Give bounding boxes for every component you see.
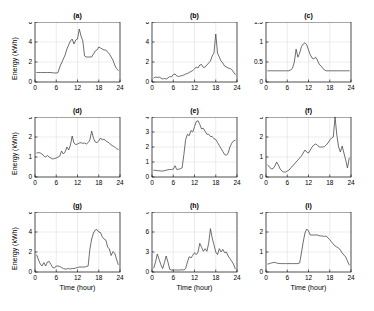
x-tick-label: 0 — [264, 179, 268, 186]
y-axis-label: Energy (kWh) — [11, 132, 18, 175]
figure-container: (a)061218240246Energy (kWh)(b)0612182402… — [0, 0, 374, 311]
x-tick-label: 6 — [54, 274, 58, 281]
x-tick-label: 18 — [95, 179, 103, 186]
x-tick-label: 18 — [326, 179, 334, 186]
y-tick-label: 3 — [145, 128, 149, 135]
y-tick-label: 2 — [259, 133, 263, 140]
y-tick-label: 0 — [28, 268, 32, 275]
chart-panel-g: (g)061218240246Energy (kWh)Time (hour) — [5, 201, 130, 295]
chart-panel-e: (e)0612182401234 — [122, 106, 247, 200]
plot-area: 0612182401234 — [122, 117, 247, 211]
x-tick-label: 18 — [212, 179, 220, 186]
chart-panel-h: (h)061218240369Time (hour) — [122, 201, 247, 295]
y-tick-label: 3 — [259, 212, 263, 215]
plot-area: 061218240123 — [5, 117, 130, 211]
x-tick-label: 0 — [150, 179, 154, 186]
chart-panel-b: (b)061218240246 — [122, 11, 247, 105]
panel-title: (c) — [266, 11, 351, 20]
y-tick-label: 3 — [28, 117, 32, 120]
x-axis-label: Time (hour) — [35, 284, 120, 291]
y-tick-label: 9 — [145, 212, 149, 215]
x-tick-label: 0 — [33, 274, 37, 281]
x-tick-label: 12 — [191, 84, 199, 91]
x-tick-label: 18 — [326, 84, 334, 91]
x-tick-label: 12 — [191, 274, 199, 281]
panel-title: (f) — [266, 106, 351, 115]
y-tick-label: 0 — [259, 173, 263, 180]
chart-panel-d: (d)061218240123Energy (kWh) — [5, 106, 130, 200]
x-tick-label: 6 — [285, 84, 289, 91]
x-tick-label: 18 — [326, 274, 334, 281]
x-tick-label: 18 — [95, 274, 103, 281]
x-tick-label: 24 — [347, 274, 355, 281]
x-tick-label: 12 — [305, 274, 313, 281]
y-axis-label: Energy (kWh) — [11, 227, 18, 270]
y-tick-label: 4 — [145, 117, 149, 120]
plot-area: 061218240246 — [5, 212, 130, 306]
x-tick-label: 6 — [285, 274, 289, 281]
plot-area: 061218240123 — [236, 117, 361, 211]
y-tick-label: 1.5 — [254, 22, 263, 25]
y-tick-label: 0 — [259, 78, 263, 85]
x-tick-label: 0 — [150, 274, 154, 281]
x-tick-label: 6 — [171, 179, 175, 186]
y-tick-label: 1 — [259, 248, 263, 255]
x-tick-label: 6 — [54, 179, 58, 186]
x-tick-label: 6 — [171, 274, 175, 281]
y-axis-label: Energy (kWh) — [11, 37, 18, 80]
x-tick-label: 0 — [264, 84, 268, 91]
y-tick-label: 3 — [145, 248, 149, 255]
x-tick-label: 12 — [305, 84, 313, 91]
panel-title: (g) — [35, 201, 120, 210]
y-tick-label: 2 — [145, 58, 149, 65]
plot-area: 061218240246 — [122, 22, 247, 116]
plot-area: 061218240369 — [122, 212, 247, 306]
y-tick-label: 2 — [145, 143, 149, 150]
x-tick-label: 12 — [74, 274, 82, 281]
x-tick-label: 18 — [212, 84, 220, 91]
y-tick-label: 0 — [28, 78, 32, 85]
x-tick-label: 6 — [285, 179, 289, 186]
x-tick-label: 18 — [212, 274, 220, 281]
y-tick-label: 0 — [259, 268, 263, 275]
panel-title: (b) — [152, 11, 237, 20]
y-tick-label: 6 — [145, 22, 149, 25]
x-tick-label: 0 — [33, 84, 37, 91]
x-tick-label: 6 — [54, 84, 58, 91]
y-tick-label: 1 — [28, 153, 32, 160]
y-tick-label: 3 — [259, 117, 263, 120]
y-tick-label: 6 — [28, 212, 32, 215]
y-tick-label: 0 — [145, 78, 149, 85]
x-tick-label: 0 — [150, 84, 154, 91]
y-tick-label: 0.5 — [254, 58, 263, 65]
x-tick-label: 0 — [33, 179, 37, 186]
x-tick-label: 24 — [347, 179, 355, 186]
y-tick-label: 4 — [28, 228, 32, 235]
y-tick-label: 4 — [145, 38, 149, 45]
panel-title: (a) — [35, 11, 120, 20]
x-axis-label: Time (hour) — [152, 284, 237, 291]
x-tick-label: 12 — [191, 179, 199, 186]
chart-panel-i: (i)061218240123Time (hour) — [236, 201, 361, 295]
panel-title: (h) — [152, 201, 237, 210]
y-tick-label: 0 — [145, 268, 149, 275]
panel-title: (d) — [35, 106, 120, 115]
panel-title: (i) — [266, 201, 351, 210]
y-tick-label: 4 — [28, 38, 32, 45]
chart-panel-c: (c)0612182400.511.5 — [236, 11, 361, 105]
y-tick-label: 2 — [28, 248, 32, 255]
x-tick-label: 0 — [264, 274, 268, 281]
y-tick-label: 2 — [28, 58, 32, 65]
y-tick-label: 6 — [145, 228, 149, 235]
y-tick-label: 6 — [28, 22, 32, 25]
y-tick-label: 2 — [259, 228, 263, 235]
y-tick-label: 1 — [259, 153, 263, 160]
x-tick-label: 6 — [171, 84, 175, 91]
x-tick-label: 12 — [74, 179, 82, 186]
y-tick-label: 0 — [28, 173, 32, 180]
y-tick-label: 2 — [28, 133, 32, 140]
plot-area: 061218240123 — [236, 212, 361, 306]
x-tick-label: 12 — [74, 84, 82, 91]
y-tick-label: 1 — [259, 38, 263, 45]
chart-panel-a: (a)061218240246Energy (kWh) — [5, 11, 130, 105]
